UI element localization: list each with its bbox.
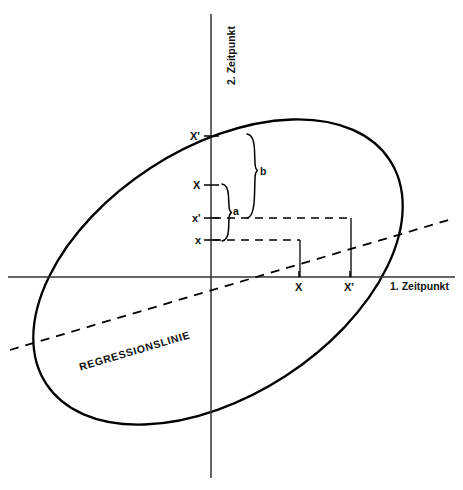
x-tick-label-X-prime: X' [344,282,354,293]
x-tick-label-X: X [295,282,302,293]
dashed-projection-lines [213,218,351,240]
brace-b [247,134,258,218]
x-axis-ticks [299,271,350,277]
brace-b-label: b [260,166,266,177]
x-axis-label: 1. Zeitpunkt [390,281,449,292]
regression-diagram: 2. Zeitpunkt 1. Zeitpunkt X' X x' x X X'… [0,0,463,490]
brace-a [222,184,232,241]
brace-a-label: a [233,206,239,217]
regression-line [10,219,452,350]
y-tick-label-X: X [193,180,200,191]
y-tick-label-x: x [195,235,201,246]
correlation-ellipse [0,56,457,487]
y-tick-label-X-prime: X' [190,131,200,142]
y-axis-label: 2. Zeitpunkt [226,26,237,85]
vertical-drop-lines [300,218,351,277]
y-tick-label-x-prime: x' [192,213,201,224]
